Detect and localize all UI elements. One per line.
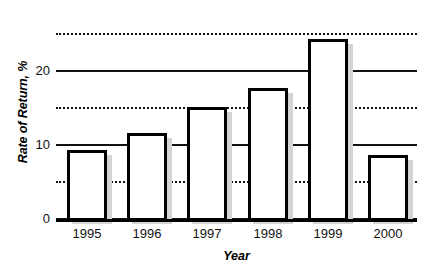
x-tick-label-1998: 1998 xyxy=(246,226,290,241)
y-tick-label-0: 0 xyxy=(24,212,50,225)
bar-1999[interactable] xyxy=(308,39,348,221)
gridline-25 xyxy=(56,33,417,35)
bar-1998[interactable] xyxy=(248,88,288,221)
y-axis-tick-labels: 01020 xyxy=(18,18,50,223)
plot-area xyxy=(56,18,417,223)
gridline-20 xyxy=(56,70,417,72)
x-tick-label-1997: 1997 xyxy=(185,226,229,241)
gridline-15 xyxy=(56,107,417,109)
x-axis-title: Year xyxy=(56,249,417,263)
x-tick-label-1996: 1996 xyxy=(125,226,169,241)
gridline-10 xyxy=(56,144,417,146)
x-axis-tick-labels: 199519961997199819992000 xyxy=(56,226,417,244)
x-tick-label-1995: 1995 xyxy=(65,226,109,241)
x-tick-label-1999: 1999 xyxy=(306,226,350,241)
y-tick-label-20: 20 xyxy=(24,64,50,77)
x-axis-line xyxy=(56,219,417,222)
bar-chart: Rate of Return, % 01020 1995199619971998… xyxy=(0,0,433,272)
bar-1995[interactable] xyxy=(67,150,107,221)
x-tick-label-2000: 2000 xyxy=(366,226,410,241)
y-tick-label-10: 10 xyxy=(24,138,50,151)
bar-1997[interactable] xyxy=(187,107,227,221)
bar-1996[interactable] xyxy=(127,133,167,221)
bar-2000[interactable] xyxy=(368,155,408,221)
